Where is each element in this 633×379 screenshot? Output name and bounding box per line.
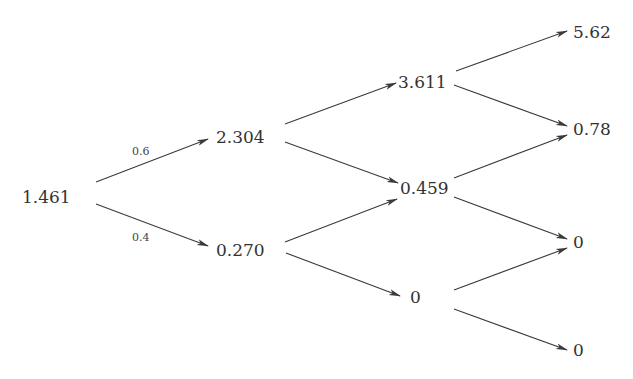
node-level3-udd: 0 (573, 232, 584, 252)
up-probability-label: 0.6 (132, 145, 150, 158)
node-level2-updown: 0.459 (400, 178, 449, 198)
down-probability-label: 0.4 (132, 231, 150, 244)
node-level2-upup: 3.611 (398, 72, 447, 92)
node-level3-uuu: 5.62 (573, 22, 611, 42)
edge-n0-n1d (96, 204, 208, 246)
binomial-tree-diagram: 0.6 0.4 1.461 2.304 0.270 3.611 0.459 0 … (0, 0, 633, 379)
edge-n2dd-n3udd (454, 248, 567, 290)
edge-n2uu-n3uud (454, 85, 567, 126)
edge-n1d-n2ud (285, 199, 397, 242)
edge-n2uu-n3uuu (456, 31, 567, 71)
edge-n1u-n2uu (285, 83, 396, 124)
node-root: 1.461 (22, 187, 71, 207)
edge-n1d-n2dd (286, 253, 400, 296)
edge-n1u-n2ud (285, 142, 398, 183)
node-level3-ddd: 0 (573, 340, 584, 360)
node-level3-uud: 0.78 (573, 119, 611, 139)
edge-n2dd-n3ddd (454, 309, 567, 350)
node-level1-up: 2.304 (216, 127, 265, 147)
edge-n0-n1u (96, 139, 208, 182)
node-level1-down: 0.270 (216, 240, 265, 260)
node-level2-downdown: 0 (410, 287, 421, 307)
edge-n2ud-n3udd (454, 197, 567, 239)
edge-n2ud-n3uud (454, 135, 567, 178)
tree-svg: 0.6 0.4 1.461 2.304 0.270 3.611 0.459 0 … (0, 0, 633, 379)
